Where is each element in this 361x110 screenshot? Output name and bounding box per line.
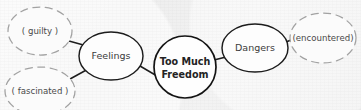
node-encountered-label: (encountered) (292, 33, 353, 43)
node-guilty-label: ( guilty ) (22, 26, 58, 36)
node-too-much-freedom-outline (154, 36, 216, 98)
node-fascinated-label: ( fascinated ) (12, 86, 69, 96)
node-encountered[interactable]: (encountered) (290, 13, 356, 63)
node-guilty[interactable]: ( guilty ) (8, 7, 72, 55)
concept-map-canvas: ( guilty ) ( fascinated ) (encountered) … (0, 0, 361, 110)
node-feelings-label: Feelings (92, 50, 131, 61)
concept-map-svg: ( guilty ) ( fascinated ) (encountered) … (0, 0, 361, 110)
node-dangers-label: Dangers (235, 42, 275, 53)
node-dangers[interactable]: Dangers (222, 24, 288, 72)
node-too-much-freedom[interactable]: Too Much Freedom (154, 36, 216, 98)
node-feelings[interactable]: Feelings (79, 32, 143, 80)
node-too-much-freedom-label-line1: Too Much (160, 56, 211, 67)
node-fascinated[interactable]: ( fascinated ) (5, 67, 75, 110)
node-too-much-freedom-label-line2: Freedom (161, 69, 208, 80)
